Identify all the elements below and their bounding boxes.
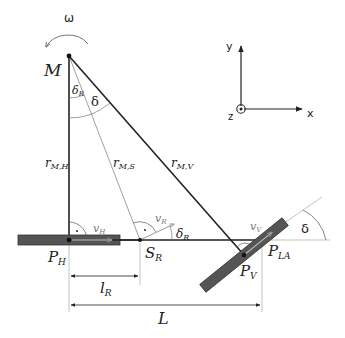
v-V-label: vV [250, 220, 262, 234]
delta-R-label-at-SR: δR [176, 227, 189, 242]
point-SR [138, 238, 142, 242]
rotation-arrow-icon [46, 35, 88, 47]
v-H-label: vH [93, 222, 106, 236]
delta-label-at-M: δ [91, 94, 99, 109]
v-R-label: vR [155, 212, 167, 226]
l-R-label: lR [100, 279, 112, 298]
M-label: M [43, 60, 62, 80]
delta-arc [69, 103, 110, 118]
PH-label: PH [47, 248, 66, 267]
PV-label: PV [239, 262, 258, 281]
y-axis-label: y [226, 40, 233, 53]
radius-labels: rM,H rM,S rM,V [45, 156, 194, 171]
z-axis-label: z [228, 111, 233, 122]
angles-at-M: δR δ [69, 84, 110, 118]
right-angle-dot-SR [144, 229, 146, 231]
L-label: L [157, 309, 169, 328]
z-axis-dot [240, 108, 243, 111]
r-MV-label: rM,V [171, 156, 194, 171]
v-R-vector [140, 224, 174, 240]
PLA-label: PLA [267, 242, 291, 261]
delta-label-front: δ [301, 221, 309, 236]
r-MS-label: rM,S [113, 156, 135, 171]
dimensions: lR L [71, 276, 260, 328]
point-PH [67, 238, 72, 243]
delta-R-arc-at-SR [170, 226, 172, 240]
r-MS-line [69, 56, 140, 240]
r-MH-label: rM,H [45, 156, 69, 171]
point-PV [242, 253, 246, 257]
x-axis-label: x [307, 107, 314, 120]
omega-rotation-indicator: ω [46, 11, 88, 47]
SR-label: SR [145, 244, 162, 263]
right-angle-dot-PH [76, 230, 78, 232]
v-R-arrow [140, 224, 174, 240]
omega-label: ω [64, 11, 74, 25]
single-track-model-diagram: ω y x z δR δ [0, 0, 345, 338]
rear-wheel [18, 235, 140, 245]
point-M [67, 54, 72, 59]
coordinate-system: y x z [226, 40, 314, 122]
delta-R-label-at-M: δR [72, 84, 85, 98]
